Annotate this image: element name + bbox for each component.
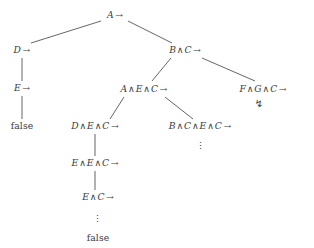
node-e-e-c-part-0: E — [72, 157, 79, 168]
tree-node-root: A→ — [107, 10, 123, 19]
tree-edges-canvas — [0, 0, 314, 248]
node-root-part-1: → — [114, 9, 123, 20]
node-e-e-c-part-1: ∧ — [78, 157, 86, 168]
node-b-and-c-part-3: → — [192, 44, 201, 55]
contradiction-bolt-icon: ↯ — [255, 99, 263, 109]
node-a-e-c-part-2: E — [136, 83, 143, 94]
tree-node-e-c: E∧C→ — [82, 192, 114, 201]
node-f-g-c-part-3: ∧ — [262, 83, 270, 94]
tree-edge-b-and-c-to-f-g-c — [202, 58, 255, 81]
node-d-e-c-part-5: → — [109, 120, 118, 131]
tree-node-a-e-c: A∧E∧C→ — [121, 84, 168, 93]
node-b-c-e-c-part-7: → — [222, 120, 231, 131]
node-b-c-e-c-part-0: B — [169, 120, 176, 131]
tree-node-f-g-c: F∧G∧C→ — [239, 84, 286, 93]
node-a-e-c-part-4: C — [151, 83, 158, 94]
node-e-e-c-part-4: C — [102, 157, 109, 168]
tree-node-d-e-c: D∧E∧C→ — [71, 121, 119, 130]
node-b-c-e-c-part-4: E — [200, 120, 207, 131]
tree-node-b-and-c: B∧C→ — [169, 45, 201, 54]
node-e-c-part-1: ∧ — [89, 191, 97, 202]
tree-edge-a-e-c-to-b-c-e-c — [165, 97, 193, 119]
tree-node-false-left: false — [11, 121, 33, 130]
tree-edge-a-e-c-to-d-e-c — [110, 97, 124, 119]
node-a-e-c-part-1: ∧ — [127, 83, 135, 94]
node-e-c-part-3: → — [105, 191, 114, 202]
node-false-bottom-part-0: false — [87, 232, 109, 243]
node-e-arrow-part-1: → — [21, 82, 30, 93]
node-b-c-e-c-part-3: ∧ — [191, 120, 199, 131]
node-root-part-0: A — [107, 9, 114, 20]
tree-node-e-e-c: E∧E∧C→ — [72, 158, 119, 167]
node-d-arrow-part-1: → — [21, 44, 30, 55]
tree-edge-root-to-b-and-c — [128, 21, 172, 43]
node-false-left-part-0: false — [11, 120, 33, 131]
node-e-arrow-part-0: E — [14, 82, 21, 93]
node-d-e-c-part-2: E — [87, 120, 94, 131]
node-a-e-c-part-5: → — [158, 83, 167, 94]
tree-edge-b-and-c-to-a-e-c — [152, 58, 171, 81]
node-d-e-c-part-3: ∧ — [94, 120, 102, 131]
node-f-g-c-part-5: → — [277, 83, 286, 94]
node-f-g-c-part-1: ∧ — [246, 83, 254, 94]
node-b-c-e-c-part-5: ∧ — [206, 120, 214, 131]
node-b-and-c-part-0: B — [169, 44, 176, 55]
node-d-e-c-part-1: ∧ — [79, 120, 87, 131]
vertical-dots-e-c: ⋮ — [93, 215, 102, 224]
node-e-c-part-0: E — [82, 191, 89, 202]
tree-node-d-arrow: D→ — [14, 45, 31, 54]
vertical-dots-b-c-e-c: ⋮ — [196, 142, 205, 151]
node-a-e-c-part-0: A — [121, 83, 128, 94]
tree-node-false-bottom: false — [87, 233, 109, 242]
tree-node-b-c-e-c: B∧C∧E∧C→ — [169, 121, 232, 130]
tree-node-e-arrow: E→ — [14, 83, 30, 92]
tree-edge-root-to-d-arrow — [31, 21, 101, 43]
node-e-e-c-part-5: → — [109, 157, 118, 168]
node-f-g-c-part-4: C — [270, 83, 277, 94]
